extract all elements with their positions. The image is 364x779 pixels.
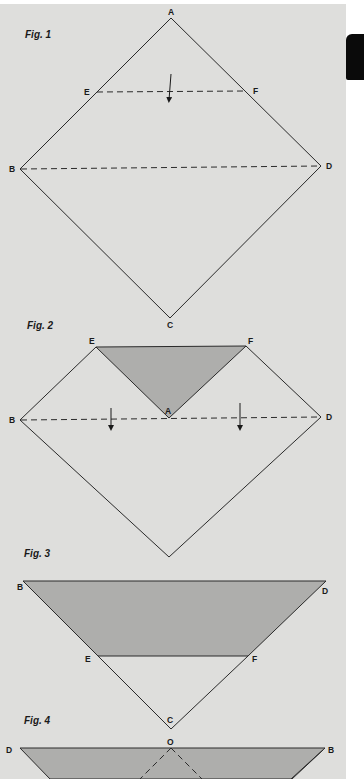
figure-3: Fig. 3 B D E F C <box>17 548 328 729</box>
point-label-b: B <box>17 582 23 592</box>
shaded-triangle <box>20 748 325 779</box>
fold-line-b-d <box>21 166 320 169</box>
point-label-f: F <box>248 336 253 346</box>
point-label-c: C <box>167 320 173 330</box>
point-label-c: C <box>167 715 173 725</box>
figure-2: Fig. 2 E F A B D <box>9 320 332 557</box>
point-label-o: O <box>167 737 174 747</box>
point-label-f: F <box>252 654 257 664</box>
origami-fold-diagram: Fig. 1 A E F B D C Fig. 2 E F A B D Fig.… <box>0 0 364 779</box>
point-label-a: A <box>168 7 174 17</box>
point-label-d: D <box>322 586 328 596</box>
shaded-trapezoid <box>23 581 326 656</box>
fold-down-arrow-icon <box>169 74 171 100</box>
fold-line-e-f <box>97 91 246 92</box>
point-label-b: B <box>328 745 334 755</box>
figure-1: Fig. 1 A E F B D C <box>9 7 332 330</box>
point-label-b: B <box>9 415 15 425</box>
point-label-a: A <box>165 406 171 416</box>
point-label-d: D <box>6 745 12 755</box>
point-label-d: D <box>326 412 332 422</box>
point-label-f: F <box>253 86 258 96</box>
figure-4-label: Fig. 4 <box>24 715 51 726</box>
point-label-b: B <box>9 164 15 174</box>
square-outline <box>20 18 321 318</box>
point-label-e: E <box>84 87 90 97</box>
point-label-e: E <box>89 336 95 346</box>
point-label-e: E <box>85 654 91 664</box>
figure-3-label: Fig. 3 <box>24 548 51 559</box>
figure-2-label: Fig. 2 <box>27 320 54 331</box>
fold-line-b-d <box>21 417 320 420</box>
figure-1-label: Fig. 1 <box>25 29 52 40</box>
point-label-d: D <box>326 161 332 171</box>
